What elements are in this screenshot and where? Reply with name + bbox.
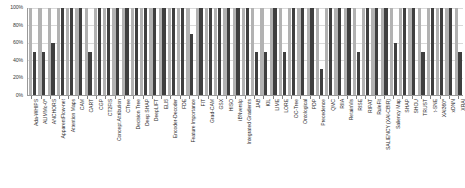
bar-group <box>241 8 250 95</box>
bar-group <box>93 8 102 95</box>
x-axis-label-cell: ALIMMo-0* <box>36 99 45 188</box>
bar-group <box>222 8 231 95</box>
bar <box>159 8 162 95</box>
x-axis-label-cell: KIL <box>259 99 268 188</box>
y-axis-tick-label: 60% <box>13 41 23 46</box>
x-axis-label-cell: Integrated Gradients <box>240 99 249 188</box>
bar <box>264 52 267 96</box>
bar <box>390 8 393 95</box>
bar <box>347 8 350 95</box>
x-axis-label-cell: SALIENCY (XAI-CBIR) <box>380 99 389 188</box>
bar <box>246 8 249 95</box>
x-axis-label-cell: LIME <box>268 99 277 188</box>
bar-group <box>158 8 167 95</box>
bar <box>320 69 323 95</box>
x-axis-label-cell: Ontological <box>296 99 305 188</box>
bar <box>172 8 175 95</box>
x-axis-label-cell: Encoder-Decoder <box>166 99 175 188</box>
bar-group <box>47 8 56 95</box>
x-axis-label-cell: iBNversIp <box>231 99 240 188</box>
bar <box>418 8 421 95</box>
bar <box>362 8 365 95</box>
x-axis-label-cell: FIT <box>194 99 203 188</box>
x-axis-label-cell: RIIA <box>333 99 342 188</box>
bar-group <box>370 8 379 95</box>
x-axis-label-cell: XAI360* <box>435 99 444 188</box>
bar <box>233 8 236 95</box>
bar <box>94 8 97 95</box>
bar <box>399 8 402 95</box>
x-axis-label-cell: Feature Importance <box>185 99 194 188</box>
bar <box>236 8 239 95</box>
bar-group <box>444 8 453 95</box>
x-axis-label-cell: JAB <box>250 99 259 188</box>
x-axis-label-cell: Ada-WHIPS <box>27 99 36 188</box>
x-axis-label-cell: Attention Maps <box>64 99 73 188</box>
bar <box>112 8 115 95</box>
bar-group <box>315 8 324 95</box>
x-axis-label-cell: QMC <box>324 99 333 188</box>
bar-group <box>361 8 370 95</box>
x-axis-label-cell: Deep SHAP <box>138 99 147 188</box>
y-axis-tick-labels: 0%20%40%60%80%100% <box>0 8 25 96</box>
bar-group <box>213 8 222 95</box>
bar <box>344 8 347 95</box>
bar-group <box>65 8 74 95</box>
bar <box>366 8 369 95</box>
x-axis-label-cell: CT2FIS <box>101 99 110 188</box>
bar-group <box>435 8 444 95</box>
x-axis-label-cell: SHOU <box>408 99 417 188</box>
bar-group <box>232 8 241 95</box>
bar-group <box>130 8 139 95</box>
bar-group <box>195 8 204 95</box>
bar <box>283 52 286 96</box>
bar <box>218 8 221 95</box>
bar <box>455 8 458 95</box>
x-axis-label-cell: SHAP <box>398 99 407 188</box>
x-axis-label-cell: FDE <box>176 99 185 188</box>
bar-group <box>389 8 398 95</box>
plot-wrapper: 0%20%40%60%80%100% Ada-WHIPSALIMMo-0*ANC… <box>0 0 465 188</box>
plot-area <box>27 8 463 96</box>
bar-group <box>74 8 83 95</box>
bar <box>196 8 199 95</box>
bar <box>223 8 226 95</box>
bar <box>329 8 332 95</box>
bar <box>260 8 263 95</box>
bar <box>144 8 147 95</box>
bar <box>33 52 36 96</box>
y-axis-tick-label: 20% <box>13 76 23 81</box>
bar <box>316 8 319 95</box>
bar <box>292 8 295 95</box>
bar-group <box>407 8 416 95</box>
bar <box>449 8 452 95</box>
bar <box>125 8 128 95</box>
bars-layer <box>28 8 463 95</box>
bar <box>403 8 406 95</box>
bar <box>79 8 82 95</box>
x-axis-label-cell: Precedence <box>315 99 324 188</box>
bar-group <box>269 8 278 95</box>
bar <box>440 8 443 95</box>
bar <box>107 8 110 95</box>
bar <box>251 8 254 95</box>
x-axis-label-cell: xDNN <box>445 99 454 188</box>
bar <box>445 8 448 95</box>
x-axis-label-cell: TRUST <box>417 99 426 188</box>
bar <box>353 8 356 95</box>
bar-group <box>296 8 305 95</box>
bar-group <box>250 8 259 95</box>
bar <box>48 8 51 95</box>
bar <box>135 8 138 95</box>
bar <box>38 8 41 95</box>
bar-group <box>287 8 296 95</box>
bar <box>209 8 212 95</box>
bar <box>186 8 189 95</box>
bar <box>177 8 180 95</box>
bar <box>29 8 32 95</box>
bar-group <box>121 8 130 95</box>
bar <box>149 8 152 95</box>
bar-group <box>454 8 463 95</box>
bar-group <box>28 8 37 95</box>
x-axis-label-cell: CTree <box>120 99 129 188</box>
